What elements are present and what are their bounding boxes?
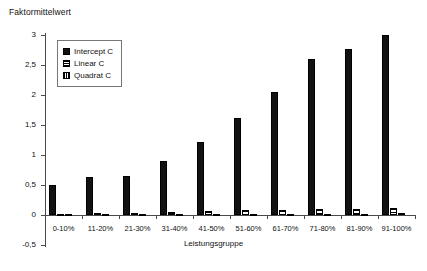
solid-square-icon: [63, 48, 70, 55]
y-tick-label: 0,5: [6, 181, 36, 189]
bar-linear-6: [242, 210, 250, 215]
bar-quadrat-7: [287, 214, 295, 216]
x-tick-mark: [45, 215, 46, 219]
x-tick-mark: [378, 215, 379, 219]
bar-intercept-8: [308, 59, 316, 215]
x-tick-mark: [304, 215, 305, 219]
y-tick-label: 3: [6, 31, 36, 39]
x-tick-mark: [415, 215, 416, 219]
x-tick-mark: [341, 215, 342, 219]
x-tick-label: 51-60%: [230, 224, 267, 233]
bar-linear-1: [57, 214, 65, 216]
x-tick-mark: [267, 215, 268, 219]
horizontal-stripe-square-icon: [63, 60, 70, 67]
bar-linear-4: [168, 212, 176, 215]
bar-chart: Faktormittelwert 32,521,510,50-0,5 0-10%…: [0, 0, 427, 271]
bar-linear-9: [353, 209, 361, 215]
x-tick-label: 31-40%: [156, 224, 193, 233]
y-tick-mark: [41, 95, 46, 96]
x-tick-mark: [82, 215, 83, 219]
bar-linear-3: [131, 213, 139, 215]
x-axis-title: Leistungsgruppe: [0, 239, 427, 248]
bar-quadrat-8: [324, 214, 332, 216]
bar-quadrat-2: [102, 214, 110, 216]
legend-item: Quadrat C: [63, 70, 113, 81]
x-tick-label: 41-50%: [193, 224, 230, 233]
bar-quadrat-4: [176, 214, 184, 216]
x-tick-label: 71-80%: [304, 224, 341, 233]
y-tick-label: 2: [6, 91, 36, 99]
x-tick-mark: [156, 215, 157, 219]
vertical-stripe-square-icon: [63, 72, 70, 79]
bar-quadrat-5: [213, 214, 221, 216]
bar-quadrat-6: [250, 214, 258, 216]
y-tick-label: 1,5: [6, 121, 36, 129]
bar-intercept-10: [382, 35, 390, 215]
y-tick-mark: [41, 35, 46, 36]
bar-linear-8: [316, 209, 324, 215]
bar-quadrat-3: [139, 214, 147, 216]
bar-intercept-1: [49, 185, 57, 215]
x-tick-label: 0-10%: [45, 224, 82, 233]
bar-quadrat-1: [65, 214, 73, 216]
x-tick-label: 91-100%: [378, 224, 415, 233]
x-tick-mark: [119, 215, 120, 219]
x-tick-label: 11-20%: [82, 224, 119, 233]
x-tick-mark: [193, 215, 194, 219]
bar-intercept-4: [160, 161, 168, 215]
y-tick-label: 1: [6, 151, 36, 159]
bar-linear-5: [205, 211, 213, 215]
bar-intercept-5: [197, 142, 205, 215]
bar-intercept-7: [271, 92, 279, 215]
y-tick-mark: [41, 155, 46, 156]
legend-item: Intercept C: [63, 46, 113, 57]
x-tick-label: 81-90%: [341, 224, 378, 233]
bar-intercept-6: [234, 118, 242, 215]
bar-linear-2: [94, 213, 102, 215]
legend-item-label: Quadrat C: [74, 71, 111, 80]
bar-quadrat-10: [398, 213, 406, 215]
x-tick-label: 61-70%: [267, 224, 304, 233]
y-tick-mark: [41, 125, 46, 126]
y-tick-mark: [41, 185, 46, 186]
x-tick-mark: [230, 215, 231, 219]
legend-item-label: Intercept C: [74, 47, 113, 56]
bar-linear-7: [279, 210, 287, 215]
bar-linear-10: [390, 208, 398, 215]
bar-intercept-3: [123, 176, 131, 215]
bar-intercept-2: [86, 177, 94, 215]
chart-legend: Intercept CLinear CQuadrat C: [57, 40, 122, 87]
bar-quadrat-9: [361, 214, 369, 216]
legend-item-label: Linear C: [74, 59, 104, 68]
y-tick-label: 0: [6, 211, 36, 219]
legend-item: Linear C: [63, 58, 113, 69]
bar-intercept-9: [345, 49, 353, 215]
y-axis-title: Faktormittelwert: [9, 7, 71, 17]
y-tick-label: 2,5: [6, 61, 36, 69]
x-tick-label: 21-30%: [119, 224, 156, 233]
y-tick-mark: [41, 65, 46, 66]
